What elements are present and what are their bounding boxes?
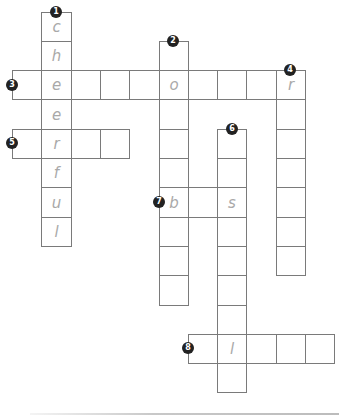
clue-number-badge: 1 [50, 6, 62, 18]
bottom-divider [30, 413, 339, 415]
cell-letter: e [52, 76, 61, 94]
crossword-cell[interactable] [100, 70, 130, 100]
crossword-cell[interactable]: r [41, 129, 72, 159]
crossword-cell[interactable] [159, 246, 189, 276]
crossword-cell[interactable]: f [41, 158, 72, 188]
cell-letter: c [52, 18, 60, 36]
crossword-cell[interactable] [71, 70, 101, 100]
crossword-cell[interactable] [276, 334, 306, 364]
cell-letter: r [288, 76, 294, 94]
crossword-cell[interactable] [246, 70, 277, 100]
cell-letter: r [53, 135, 59, 153]
cell-letter: l [54, 223, 58, 241]
cell-letter: l [230, 340, 234, 358]
crossword-cell[interactable] [217, 158, 247, 188]
crossword-cell[interactable] [188, 187, 218, 218]
crossword-cell[interactable] [276, 99, 306, 130]
crossword-cell[interactable] [276, 187, 306, 218]
crossword-cell[interactable] [188, 70, 218, 100]
crossword-cell[interactable] [276, 246, 306, 276]
crossword-cell[interactable] [276, 217, 306, 247]
crossword-cell[interactable] [100, 129, 130, 159]
crossword-cell[interactable] [71, 129, 101, 159]
crossword-cell[interactable] [159, 129, 189, 159]
clue-number-badge: 6 [226, 123, 238, 135]
crossword-cell[interactable] [217, 217, 247, 247]
cell-letter: o [169, 76, 178, 94]
crossword-cell[interactable] [129, 70, 160, 100]
crossword-cell[interactable] [217, 70, 247, 100]
crossword-cell[interactable]: e [41, 70, 72, 100]
clue-number-badge: 5 [6, 137, 18, 149]
cell-letter: f [54, 164, 59, 182]
crossword-cell[interactable] [276, 158, 306, 188]
cell-letter: e [52, 106, 61, 124]
crossword-cell[interactable] [305, 334, 335, 364]
crossword-cell[interactable] [246, 334, 277, 364]
cell-letter: b [169, 194, 179, 212]
clue-number-badge: 8 [182, 342, 194, 354]
clue-number-badge: 2 [167, 35, 179, 47]
crossword-cell[interactable]: u [41, 187, 72, 218]
cell-letter: h [52, 47, 62, 65]
crossword-cell[interactable] [159, 158, 189, 188]
crossword-puzzle: cheerfulobrsl12345678 [0, 0, 339, 416]
clue-number-badge: 4 [284, 64, 296, 76]
crossword-cell[interactable] [276, 129, 306, 159]
crossword-cell[interactable]: s [217, 187, 247, 218]
crossword-cell[interactable]: e [41, 99, 72, 130]
cell-letter: s [228, 194, 236, 212]
crossword-cell[interactable] [217, 246, 247, 276]
crossword-cell[interactable]: l [41, 217, 72, 247]
cell-letter: u [52, 194, 62, 212]
crossword-cell[interactable] [159, 217, 189, 247]
crossword-cell[interactable]: o [159, 70, 189, 100]
clue-number-badge: 7 [153, 196, 165, 208]
crossword-cell[interactable] [217, 275, 247, 306]
clue-number-badge: 3 [6, 79, 18, 91]
crossword-cell[interactable] [217, 305, 247, 335]
crossword-cell[interactable] [217, 363, 247, 393]
crossword-cell[interactable]: l [217, 334, 247, 364]
crossword-cell[interactable]: h [41, 41, 72, 71]
crossword-cell[interactable] [159, 275, 189, 306]
crossword-cell[interactable] [159, 99, 189, 130]
